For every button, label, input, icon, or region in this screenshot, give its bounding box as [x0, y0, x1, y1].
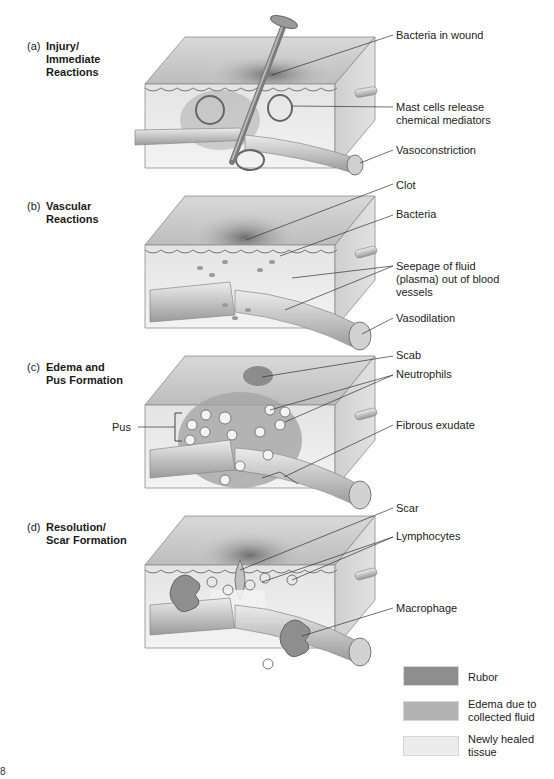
panel-c-block — [145, 356, 378, 509]
panel-a-block — [135, 13, 378, 175]
callout-macrophage: Macrophage — [396, 602, 457, 615]
legend-label-edema: Edema due to collected fluid — [468, 698, 537, 724]
panel-c-heading: Edema and Pus Formation — [46, 361, 156, 387]
panel-c-letter: (c) — [27, 361, 40, 374]
panel-d-letter: (d) — [27, 521, 40, 534]
legend-swatch-rubor — [403, 666, 459, 686]
page-number: 8 — [0, 766, 6, 777]
callout-bacteria-in-wound: Bacteria in wound — [396, 29, 483, 42]
callout-neutrophils: Neutrophils — [396, 368, 452, 381]
panel-a-letter: (a) — [27, 40, 40, 53]
callout-fibrous-exudate: Fibrous exudate — [396, 419, 475, 432]
callout-vasodilation: Vasodilation — [396, 312, 455, 325]
panel-d-block — [145, 516, 378, 669]
callout-bacteria: Bacteria — [396, 208, 436, 221]
callout-lymphocytes: Lymphocytes — [396, 530, 460, 543]
callout-vasoconstriction: Vasoconstriction — [396, 144, 476, 157]
callout-scar: Scar — [396, 502, 419, 515]
legend-swatch-edema — [403, 701, 459, 721]
panel-d-heading: Resolution/ Scar Formation — [46, 521, 156, 547]
callout-scab: Scab — [396, 349, 421, 362]
callout-mast-cells: Mast cells release chemical mediators — [396, 101, 491, 127]
callout-seepage-of-fluid: Seepage of fluid (plasma) out of blood v… — [396, 260, 499, 299]
panel-b-heading: Vascular Reactions — [46, 200, 156, 226]
legend-label-rubor: Rubor — [468, 671, 498, 684]
legend-label-newly-healed: Newly healed tissue — [468, 733, 534, 759]
callout-pus: Pus — [112, 421, 131, 434]
panel-a-heading: Injury/ Immediate Reactions — [46, 40, 156, 79]
callout-clot: Clot — [396, 179, 416, 192]
legend-swatch-newly-healed — [403, 736, 459, 756]
panel-b-letter: (b) — [27, 200, 40, 213]
panel-b-block — [145, 196, 378, 350]
